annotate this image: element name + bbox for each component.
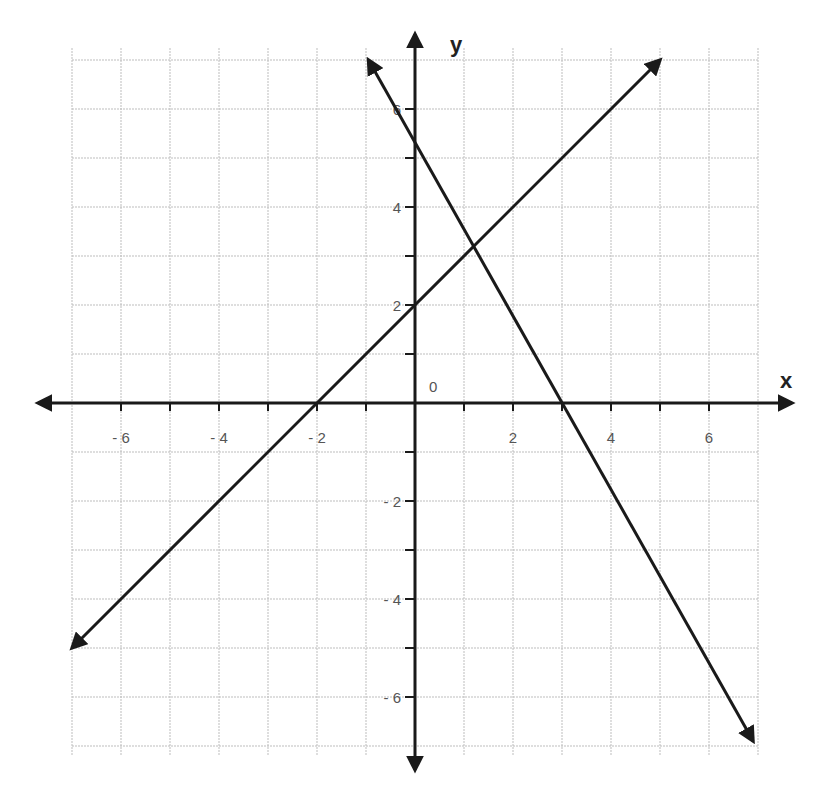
coordinate-plane: - 6- 4- 2246- 6- 4- 2246 x y 0: [0, 0, 830, 795]
x-tick-label: 2: [509, 429, 517, 446]
x-tick-label: 4: [607, 429, 615, 446]
x-tick-label: - 2: [308, 429, 326, 446]
x-tick-label: - 6: [112, 429, 130, 446]
y-tick-label: - 6: [383, 689, 401, 706]
line-decreasing: [368, 60, 753, 741]
x-axis-title: x: [780, 368, 793, 393]
origin-label: 0: [429, 378, 437, 395]
y-tick-label: 4: [393, 199, 401, 216]
y-tick-label: 2: [393, 297, 401, 314]
x-tick-label: - 4: [210, 429, 228, 446]
plotted-lines: [72, 60, 753, 741]
y-tick-label: - 4: [383, 591, 401, 608]
y-axis-title: y: [450, 32, 463, 57]
x-tick-label: 6: [705, 429, 713, 446]
y-tick-label: - 2: [383, 493, 401, 510]
